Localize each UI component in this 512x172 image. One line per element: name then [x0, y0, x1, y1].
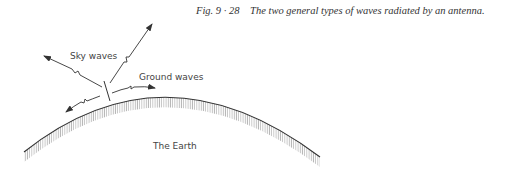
- sky-waves-label: Sky waves: [70, 51, 117, 61]
- earth-label: The Earth: [153, 141, 197, 151]
- ground-wave-right-arrow: [112, 86, 155, 93]
- antenna: [104, 81, 110, 101]
- ground-wave-left-arrow: [66, 96, 100, 112]
- figure-number: Fig. 9 · 28: [196, 5, 239, 16]
- wave-diagram: [0, 0, 512, 172]
- ground-waves-label: Ground waves: [139, 72, 203, 82]
- figure-caption-text: The two general types of waves radiated …: [250, 5, 484, 16]
- figure-caption: Fig. 9 · 28 The two general types of wav…: [196, 5, 485, 16]
- earth-hatching: [24, 97, 320, 167]
